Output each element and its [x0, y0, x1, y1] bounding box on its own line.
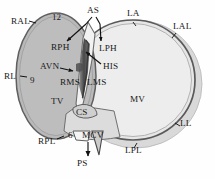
- label-rl: RL: [4, 72, 16, 81]
- as-bracket-right: [96, 17, 100, 24]
- label-clock-12: 12: [52, 13, 61, 22]
- label-mv: MV: [130, 95, 145, 104]
- label-rph: RPH: [51, 43, 69, 52]
- label-avn: AVN: [40, 62, 59, 71]
- label-clock-6: 6: [68, 131, 73, 140]
- label-cs: CS: [76, 108, 88, 117]
- label-tv: TV: [51, 97, 64, 106]
- label-rms: RMS: [60, 78, 80, 87]
- anatomical-diagram-figure: RAL 12 AS LA LAL RPH LPH RL 9 AVN HIS RM…: [0, 0, 215, 179]
- label-his: HIS: [103, 62, 118, 71]
- label-lal: LAL: [173, 22, 191, 31]
- label-lpl: LPL: [125, 146, 142, 155]
- label-rpl: RPL: [38, 137, 55, 146]
- label-clock-9: 9: [30, 76, 35, 85]
- label-la: LA: [127, 9, 140, 18]
- label-lph: LPH: [99, 44, 117, 53]
- label-mcv: MCV: [82, 131, 104, 140]
- label-ll: LL: [180, 119, 192, 128]
- label-as: AS: [87, 6, 99, 15]
- label-ps: PS: [77, 159, 88, 168]
- label-lms: LMS: [87, 78, 107, 87]
- label-ral: RAL: [11, 17, 30, 26]
